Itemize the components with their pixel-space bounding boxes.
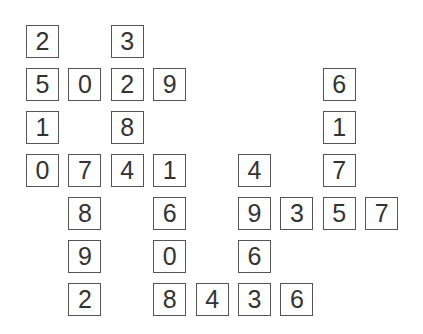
grid-cell: 2 bbox=[68, 283, 101, 316]
grid-cell: 0 bbox=[153, 240, 186, 273]
grid-cell: 5 bbox=[323, 197, 356, 230]
grid-cell: 6 bbox=[323, 68, 356, 101]
number-grid: 235029618107414786935790628436 bbox=[0, 0, 423, 334]
grid-cell: 5 bbox=[26, 68, 59, 101]
grid-cell: 4 bbox=[196, 283, 229, 316]
grid-cell: 1 bbox=[153, 154, 186, 187]
grid-cell: 8 bbox=[68, 197, 101, 230]
grid-cell: 8 bbox=[111, 111, 144, 144]
grid-cell: 6 bbox=[153, 197, 186, 230]
grid-cell: 1 bbox=[26, 111, 59, 144]
grid-cell: 3 bbox=[111, 25, 144, 58]
grid-cell: 6 bbox=[238, 240, 271, 273]
grid-cell: 1 bbox=[323, 111, 356, 144]
grid-cell: 3 bbox=[280, 197, 313, 230]
grid-cell: 4 bbox=[238, 154, 271, 187]
grid-cell: 9 bbox=[153, 68, 186, 101]
grid-cell: 6 bbox=[280, 283, 313, 316]
grid-cell: 9 bbox=[238, 197, 271, 230]
grid-cell: 2 bbox=[111, 68, 144, 101]
grid-cell: 8 bbox=[153, 283, 186, 316]
grid-cell: 0 bbox=[68, 68, 101, 101]
grid-cell: 7 bbox=[68, 154, 101, 187]
grid-cell: 7 bbox=[365, 197, 398, 230]
grid-cell: 7 bbox=[323, 154, 356, 187]
grid-cell: 2 bbox=[26, 25, 59, 58]
grid-cell: 3 bbox=[238, 283, 271, 316]
grid-cell: 0 bbox=[26, 154, 59, 187]
grid-cell: 4 bbox=[111, 154, 144, 187]
grid-cell: 9 bbox=[68, 240, 101, 273]
